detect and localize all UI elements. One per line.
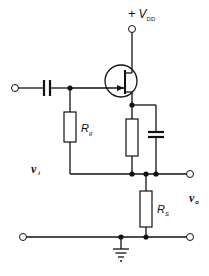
rs-label: RS xyxy=(157,203,169,217)
vdd-label: +VDD xyxy=(128,6,156,22)
resistor-rs: RS xyxy=(140,174,169,237)
input-network xyxy=(12,80,73,96)
gate-arrow-icon xyxy=(117,85,124,91)
input-terminal xyxy=(12,85,19,92)
vo-label: vo xyxy=(189,191,199,205)
vdd-rail xyxy=(129,26,136,67)
jfet-transistor xyxy=(70,65,137,105)
ground-input-terminal xyxy=(20,234,27,241)
vi-label: vi xyxy=(31,162,40,176)
source-resistor xyxy=(126,119,138,156)
vdd-terminal xyxy=(129,26,136,33)
rg-label: Rg xyxy=(81,122,93,136)
output-terminal xyxy=(187,171,194,178)
source-network xyxy=(126,102,194,177)
ground-output-terminal xyxy=(187,234,194,241)
ground-icon xyxy=(113,237,129,261)
ground-rail xyxy=(20,234,194,262)
circuit-diagram: Rg RS xyxy=(0,0,209,276)
resistor-rg: Rg xyxy=(64,88,132,174)
